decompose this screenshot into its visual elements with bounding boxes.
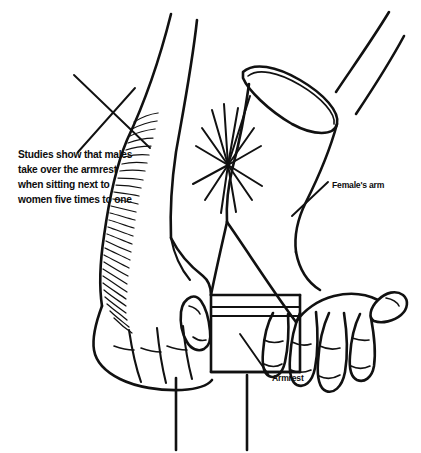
- studies-callout-line-1: Studies show that males: [18, 149, 133, 160]
- studies-callout-line-2: take over the armrest: [18, 164, 118, 175]
- studies-callout-line-4: women five times to one: [17, 194, 132, 205]
- armrest-illustration: Studies show that males take over the ar…: [0, 0, 421, 453]
- canvas-background: [0, 0, 421, 453]
- armrest-label: Armrest: [272, 373, 304, 383]
- studies-callout-line-3: when sitting next to: [17, 179, 110, 190]
- female-arm-label: Female's arm: [332, 180, 385, 190]
